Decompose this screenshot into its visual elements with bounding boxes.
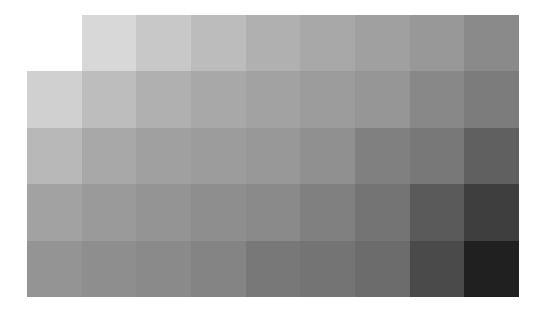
tile-r4-c0 — [27, 241, 82, 297]
tile-r3-c6 — [355, 184, 410, 241]
tile-r1-c5 — [300, 71, 355, 128]
tile-r2-c7 — [410, 128, 464, 184]
tile-r4-c2 — [136, 241, 191, 297]
tile-r2-c5 — [300, 128, 355, 184]
tile-r1-c0 — [27, 71, 82, 128]
tile-r4-c8 — [464, 241, 519, 297]
tile-r0-c3 — [191, 15, 246, 71]
tile-r0-c6 — [355, 15, 410, 71]
tile-r3-c5 — [300, 184, 355, 241]
tile-r4-c7 — [410, 241, 464, 297]
tile-r1-c7 — [410, 71, 464, 128]
tile-r1-c6 — [355, 71, 410, 128]
tile-r1-c1 — [82, 71, 136, 128]
tile-r3-c4 — [246, 184, 300, 241]
tile-r0-c8 — [464, 15, 519, 71]
tile-r2-c4 — [246, 128, 300, 184]
tile-r3-c7 — [410, 184, 464, 241]
tile-r3-c1 — [82, 184, 136, 241]
tile-r2-c1 — [82, 128, 136, 184]
tile-r3-c2 — [136, 184, 191, 241]
tile-r0-c7 — [410, 15, 464, 71]
tile-r4-c5 — [300, 241, 355, 297]
tile-r3-c3 — [191, 184, 246, 241]
grayscale-tile-grid — [27, 15, 519, 297]
tile-r3-c8 — [464, 184, 519, 241]
tile-r1-c2 — [136, 71, 191, 128]
tile-r1-c8 — [464, 71, 519, 128]
tile-r4-c1 — [82, 241, 136, 297]
tile-r1-c3 — [191, 71, 246, 128]
tile-r0-c5 — [300, 15, 355, 71]
tile-r0-c1 — [82, 15, 136, 71]
tile-r2-c6 — [355, 128, 410, 184]
tile-r2-c3 — [191, 128, 246, 184]
tile-r4-c6 — [355, 241, 410, 297]
tile-r1-c4 — [246, 71, 300, 128]
tile-r3-c0 — [27, 184, 82, 241]
tile-r4-c3 — [191, 241, 246, 297]
tile-r0-c4 — [246, 15, 300, 71]
tile-r2-c2 — [136, 128, 191, 184]
tile-r0-c2 — [136, 15, 191, 71]
tile-r4-c4 — [246, 241, 300, 297]
tile-r2-c8 — [464, 128, 519, 184]
tile-r2-c0 — [27, 128, 82, 184]
